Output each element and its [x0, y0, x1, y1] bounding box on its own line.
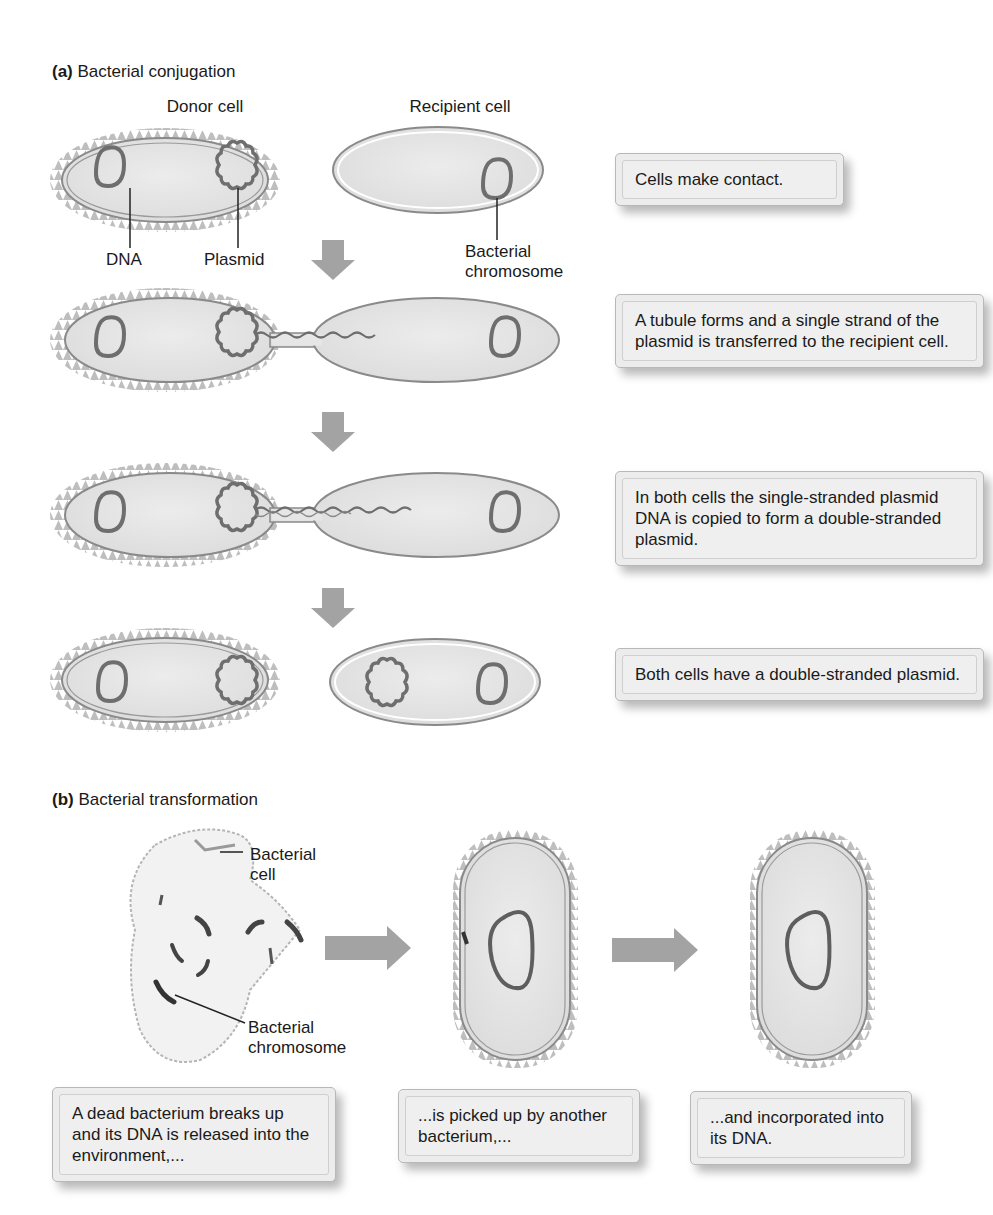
- bacterial-chromosome-label: Bacterial chromosome: [465, 242, 563, 282]
- dna-label: DNA: [106, 250, 142, 270]
- caption-step-4: Both cells have a double-stranded plasmi…: [615, 648, 984, 701]
- plasmid-label: Plasmid: [204, 250, 264, 270]
- row2-cells: [50, 288, 559, 392]
- bacterial-cell-label: Bacterial cell: [250, 845, 316, 885]
- caption-step-2: A tubule forms and a single strand of th…: [615, 294, 984, 368]
- row4-recipient-cell: [330, 639, 540, 725]
- bacterial-chromosome-label-b: Bacterial chromosome: [248, 1018, 346, 1058]
- recipient-bacterium: [453, 830, 578, 1068]
- row3-cells: [50, 463, 559, 567]
- row1-recipient-cell: [333, 127, 543, 213]
- caption-step-1: Cells make contact.: [615, 153, 844, 206]
- caption-transformation-2: ...is picked up by another bacterium,...: [398, 1089, 640, 1163]
- row1-donor-cell: [50, 128, 280, 232]
- panel-b-title-text: Bacterial transformation: [78, 790, 258, 809]
- transformed-bacterium: [750, 830, 875, 1068]
- row4-donor-cell: [50, 628, 280, 732]
- caption-transformation-1: A dead bacterium breaks up and its DNA i…: [52, 1087, 336, 1182]
- caption-step-3: In both cells the single-stranded plasmi…: [615, 471, 984, 566]
- panel-b-title: (b) Bacterial transformation: [52, 790, 258, 810]
- diagram-graphics: [0, 0, 993, 1215]
- caption-transformation-3: ...and incorporated into its DNA.: [690, 1091, 912, 1165]
- panel-b-letter: (b): [52, 790, 74, 809]
